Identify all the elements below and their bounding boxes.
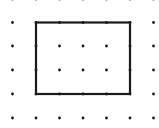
grid-dot <box>152 45 155 48</box>
grid-dot <box>82 45 85 48</box>
grid-dot <box>11 45 14 48</box>
grid-dot <box>58 45 61 48</box>
grid-dot <box>152 93 155 96</box>
grid-dot <box>11 69 14 72</box>
grid-dot <box>82 69 85 72</box>
grid-dot <box>58 117 61 120</box>
rectangle-outline <box>36 23 130 95</box>
grid-dot <box>58 69 61 72</box>
grid-dot <box>152 21 155 24</box>
grid-dot <box>129 117 132 120</box>
grid-dot <box>105 45 108 48</box>
grid-dot <box>152 117 155 120</box>
grid-dot <box>11 117 14 120</box>
grid-dot <box>105 117 108 120</box>
grid-dot <box>11 93 14 96</box>
grid-dots <box>11 0 155 119</box>
grid-dot <box>105 69 108 72</box>
grid-dot <box>82 117 85 120</box>
grid-dot <box>152 69 155 72</box>
dot-grid-diagram <box>0 0 159 128</box>
grid-dot <box>35 117 38 120</box>
grid-dot <box>11 21 14 24</box>
